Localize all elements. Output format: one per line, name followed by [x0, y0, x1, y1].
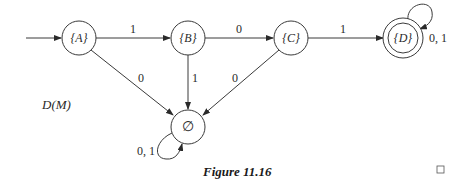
self-loop-empty-label: 0, 1: [137, 144, 155, 158]
state-D-label: {D}: [394, 31, 412, 45]
edge-C-empty-label: 0: [232, 71, 238, 85]
edge-B-C-label: 0: [236, 22, 242, 36]
end-of-proof-mark: [437, 166, 444, 173]
edge-C-empty: [203, 50, 279, 115]
dfa-diagram: {A} {B} {C} {D} ∅ 1 0 1 0, 1 0 1 0 0, 1 …: [0, 0, 470, 184]
edge-A-empty-label: 0: [138, 71, 144, 85]
figure-caption: Figure 11.16: [202, 164, 272, 179]
edge-A-B-label: 1: [130, 22, 136, 36]
state-C-label: {C}: [282, 31, 300, 45]
edge-B-empty-label: 1: [192, 71, 198, 85]
state-empty-label: ∅: [182, 119, 194, 134]
edge-A-empty: [91, 50, 173, 115]
state-A-label: {A}: [71, 31, 88, 45]
state-B-label: {B}: [180, 31, 197, 45]
edge-C-D-label: 1: [340, 22, 346, 36]
self-loop-D-label: 0, 1: [429, 31, 447, 45]
diagram-title: D(M): [41, 97, 71, 112]
